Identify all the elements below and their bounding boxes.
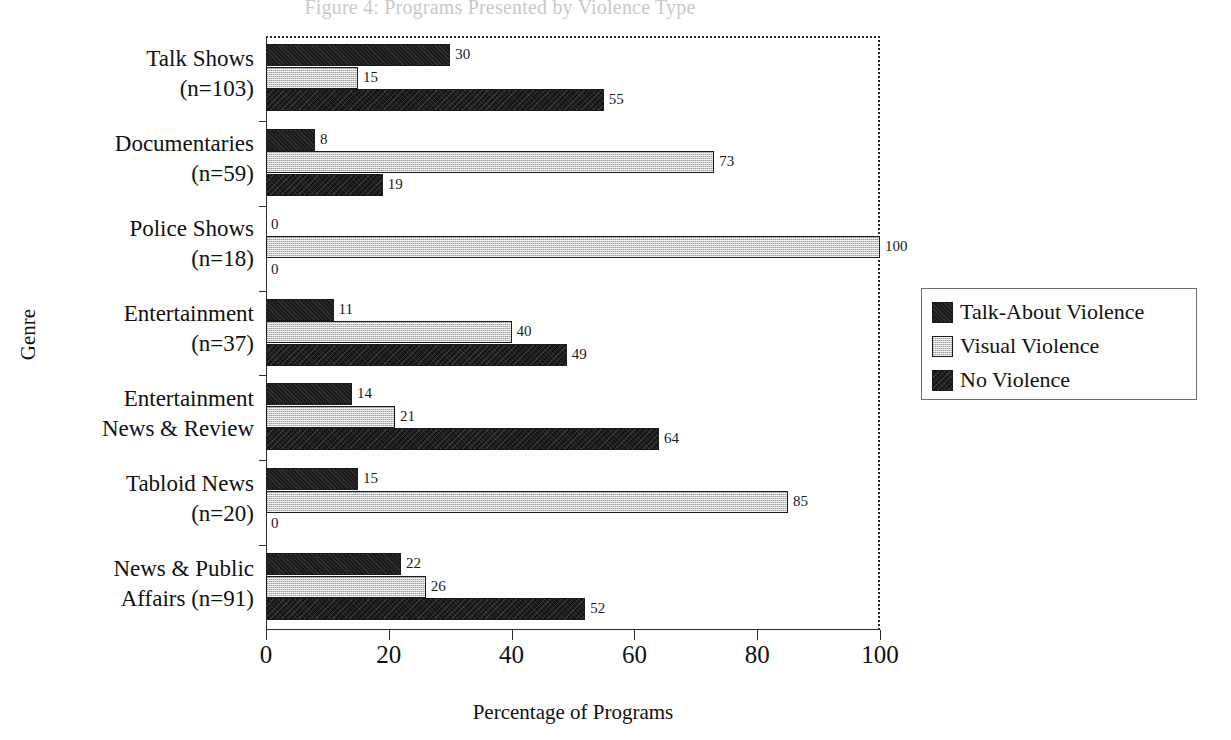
bar-row: 15	[266, 67, 880, 89]
y-axis-tick-label-line: Entertainment	[102, 384, 254, 414]
bar-row: 73	[266, 151, 880, 173]
bar-value-label: 14	[357, 387, 372, 402]
bar[interactable]	[266, 428, 659, 450]
bar[interactable]	[266, 174, 383, 196]
x-axis-tick-label: 40	[499, 641, 524, 669]
y-axis-tick-label-line: (n=37)	[124, 329, 254, 359]
bar-row: 85	[266, 491, 880, 513]
bar-row: 52	[266, 598, 880, 620]
bar[interactable]	[266, 468, 358, 490]
bar[interactable]	[266, 299, 334, 321]
bar-group: 142164	[266, 375, 880, 460]
x-axis-tick	[757, 630, 758, 640]
bar-value-label: 8	[320, 132, 328, 147]
y-axis-group-tick	[259, 121, 267, 122]
bar-row: 40	[266, 321, 880, 343]
bar-row: 64	[266, 428, 880, 450]
bar[interactable]	[266, 383, 352, 405]
bar-value-label: 30	[455, 47, 470, 62]
bar[interactable]	[266, 491, 788, 513]
bar-value-label: 11	[339, 302, 353, 317]
bar-value-label: 0	[271, 217, 279, 232]
y-axis-tick-label: Entertainment(n=37)	[124, 299, 254, 359]
bar[interactable]	[266, 236, 880, 258]
x-axis-tick-label: 20	[376, 641, 401, 669]
x-axis-tick-label: 80	[745, 641, 770, 669]
y-axis-tick-label: Police Shows(n=18)	[129, 214, 254, 274]
bar-row: 21	[266, 406, 880, 428]
x-axis-tick	[634, 630, 635, 640]
y-axis-tick-label-line: (n=18)	[129, 244, 254, 274]
bar[interactable]	[266, 553, 401, 575]
y-axis-tick-label-line: News & Public	[113, 554, 254, 584]
bar-group: 15850	[266, 460, 880, 545]
bar[interactable]	[266, 151, 714, 173]
bar-row: 49	[266, 344, 880, 366]
y-axis-group-tick	[259, 375, 267, 376]
bar[interactable]	[266, 576, 426, 598]
y-axis-tick-label-line: News & Review	[102, 414, 254, 444]
legend-swatch	[932, 370, 953, 391]
y-axis-tick-label-line: Talk Shows	[146, 44, 254, 74]
bar-row: 11	[266, 299, 880, 321]
bar-row: 0	[266, 513, 880, 535]
y-axis-tick-label: Talk Shows(n=103)	[146, 44, 254, 104]
bar-row: 22	[266, 553, 880, 575]
bar-row: 30	[266, 44, 880, 66]
x-axis-tick	[880, 630, 881, 640]
y-axis-tick-label-line: Tabloid News	[126, 469, 254, 499]
bar-row: 26	[266, 576, 880, 598]
bar-row: 55	[266, 89, 880, 111]
legend-swatch	[932, 302, 953, 323]
plot-area: 301555873190100011404914216415850222652	[266, 36, 880, 630]
bar-value-label: 73	[719, 155, 734, 170]
legend-swatch	[932, 336, 953, 357]
bar-value-label: 49	[572, 347, 587, 362]
bar-row: 100	[266, 236, 880, 258]
y-axis-tick-label-line: Police Shows	[129, 214, 254, 244]
bar-group: 222652	[266, 545, 880, 630]
bar-value-label: 21	[400, 409, 415, 424]
x-axis-tick-label: 100	[861, 641, 899, 669]
bar[interactable]	[266, 129, 315, 151]
bar-value-label: 19	[388, 177, 403, 192]
x-axis-tick-label: 0	[260, 641, 273, 669]
bar-row: 15	[266, 468, 880, 490]
bar-value-label: 15	[363, 471, 378, 486]
y-axis-tick-label-line: Documentaries	[115, 129, 254, 159]
x-axis-tick	[266, 630, 267, 640]
bar-row: 0	[266, 214, 880, 236]
y-axis-tick-label: Tabloid News(n=20)	[126, 469, 254, 529]
bar[interactable]	[266, 406, 395, 428]
legend-label: No Violence	[960, 369, 1070, 391]
bar[interactable]	[266, 598, 585, 620]
y-axis-tick-label-line: (n=20)	[126, 499, 254, 529]
y-axis-tick-label-line: Affairs (n=91)	[113, 584, 254, 614]
legend: Talk-About ViolenceVisual ViolenceNo Vio…	[921, 288, 1197, 400]
bar-value-label: 40	[517, 324, 532, 339]
chart-canvas: Figure 4: Programs Presented by Violence…	[0, 0, 1231, 740]
legend-label: Visual Violence	[960, 335, 1099, 357]
y-axis-tick-label-line: Entertainment	[124, 299, 254, 329]
y-axis-group-tick	[259, 291, 267, 292]
legend-item[interactable]: No Violence	[932, 363, 1196, 397]
bar-group: 01000	[266, 206, 880, 291]
x-axis-tick-label: 60	[622, 641, 647, 669]
y-axis-group-tick	[259, 206, 267, 207]
bar-row: 19	[266, 174, 880, 196]
x-axis-title: Percentage of Programs	[266, 700, 880, 725]
bar[interactable]	[266, 321, 512, 343]
legend-item[interactable]: Talk-About Violence	[932, 295, 1196, 329]
bar-value-label: 26	[431, 579, 446, 594]
legend-item[interactable]: Visual Violence	[932, 329, 1196, 363]
figure-title: Figure 4: Programs Presented by Violence…	[0, 0, 1000, 19]
y-axis-title: Genre	[16, 285, 41, 385]
bar-value-label: 85	[793, 494, 808, 509]
bar[interactable]	[266, 44, 450, 66]
bar[interactable]	[266, 89, 604, 111]
bar-value-label: 55	[609, 92, 624, 107]
bar[interactable]	[266, 67, 358, 89]
y-axis-group-tick	[259, 545, 267, 546]
x-axis-tick	[512, 630, 513, 640]
bar[interactable]	[266, 344, 567, 366]
